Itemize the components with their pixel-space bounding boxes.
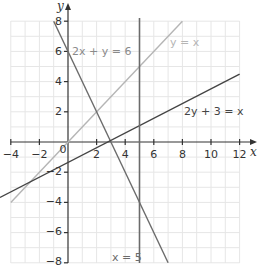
x-axis-label: x [250, 145, 257, 159]
svg-text:−2: −2 [31, 148, 47, 161]
svg-text:8: 8 [55, 15, 62, 28]
svg-text:−8: −8 [46, 255, 62, 268]
svg-text:−4: −4 [46, 195, 62, 208]
svg-text:6: 6 [150, 148, 157, 161]
svg-text:0: 0 [60, 143, 67, 156]
svg-text:10: 10 [204, 148, 218, 161]
svg-text:−4: −4 [3, 148, 19, 161]
svg-text:−2: −2 [46, 165, 62, 178]
line-2y-plus-3-equals-x [0, 74, 240, 197]
label-2x-plus-y-equals-6: 2x + y = 6 [72, 45, 131, 58]
svg-text:8: 8 [179, 148, 186, 161]
coordinate-graph: −4 −2 0 2 4 6 8 10 12 −8 −6 −4 −2 2 4 6 … [0, 0, 257, 273]
svg-text:−6: −6 [46, 225, 62, 238]
svg-text:2: 2 [55, 105, 62, 118]
svg-text:4: 4 [55, 75, 62, 88]
y-axis-label: y [56, 0, 64, 13]
svg-text:12: 12 [233, 148, 247, 161]
svg-text:4: 4 [122, 148, 129, 161]
y-axis-arrow-icon [65, 3, 71, 10]
label-x-equals-5: x = 5 [112, 251, 142, 264]
svg-text:2: 2 [93, 148, 100, 161]
svg-text:6: 6 [55, 45, 62, 58]
label-y-equals-x: y = x [170, 36, 200, 49]
label-2y-plus-3-equals-x: 2y + 3 = x [184, 105, 244, 118]
